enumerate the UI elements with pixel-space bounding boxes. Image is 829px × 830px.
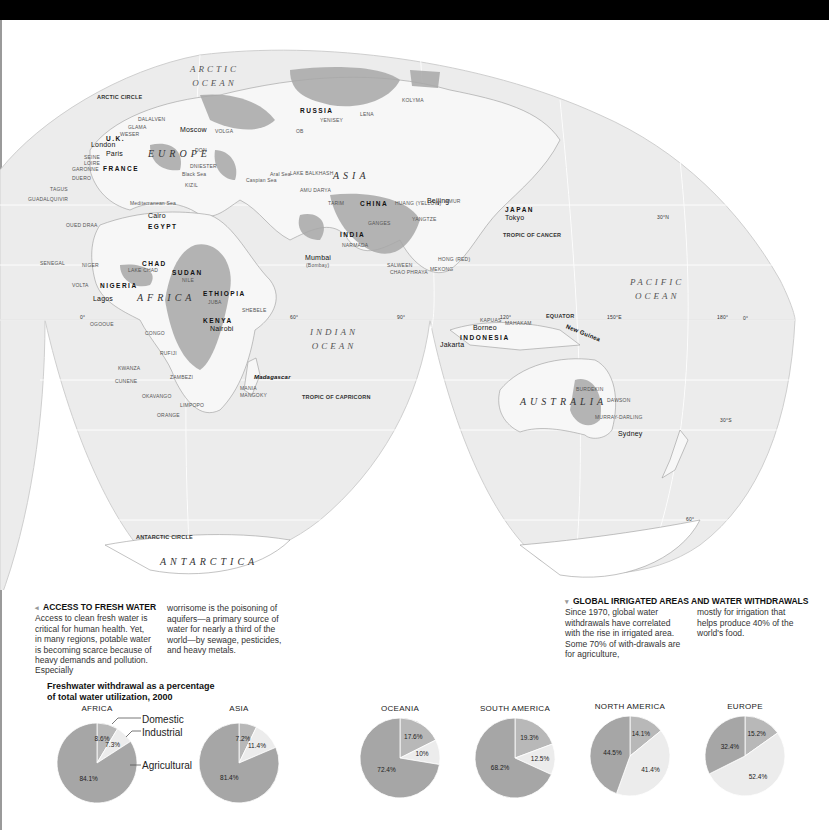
pie-title-south-america: SOUTH AMERICA	[455, 704, 575, 713]
pie-value-industrial: 41.4%	[641, 766, 659, 773]
pie-title-oceania: OCEANIA	[340, 704, 460, 713]
pie-value-agricultural: 72.4%	[377, 766, 395, 773]
pie-value-agricultural: 68.2%	[491, 764, 509, 771]
pie-value-domestic: 15.2%	[747, 730, 765, 737]
pie-value-agricultural: 84.1%	[79, 775, 97, 782]
pie-value-domestic: 14.1%	[632, 730, 650, 737]
pie-value-agricultural: 44.5%	[603, 749, 621, 756]
pie-value-agricultural: 32.4%	[721, 743, 739, 750]
pie-value-industrial: 52.4%	[749, 773, 767, 780]
pie-value-industrial: 11.4%	[248, 742, 266, 749]
pie-value-domestic: 19.3%	[520, 734, 538, 741]
pie-value-industrial: 12.5%	[531, 755, 549, 762]
pie-value-domestic: 7.2%	[236, 735, 251, 742]
pie-title-europe: EUROPE	[685, 702, 805, 711]
pie-title-north-america: NORTH AMERICA	[570, 702, 690, 711]
pie-value-industrial: 7.3%	[105, 741, 120, 748]
pie-value-domestic: 17.6%	[404, 733, 422, 740]
pie-value-agricultural: 81.4%	[220, 774, 238, 781]
pie-title-asia: ASIA	[179, 704, 299, 713]
pie-value-industrial: 10%	[416, 750, 429, 757]
pie-title-africa: AFRICA	[37, 704, 157, 713]
